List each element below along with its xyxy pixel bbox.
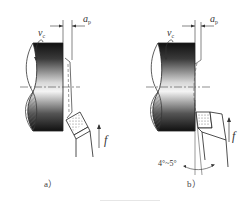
ap-subscript: p (215, 19, 218, 25)
caption-a: a） (44, 180, 57, 189)
vc-subscript: c (171, 33, 174, 39)
angle-label-b: 4°~5° (158, 160, 177, 168)
feed-label-b: f (232, 130, 235, 142)
depth-of-cut-label-b: ap (210, 14, 218, 25)
panel-a (20, 20, 101, 157)
cutting-tool-a (66, 112, 93, 157)
panel-b (146, 20, 231, 175)
cutting-speed-label-a: vc (38, 28, 45, 39)
depth-of-cut-label-a: ap (83, 14, 91, 25)
caption-b: b） (187, 180, 201, 189)
angle-arc-b (184, 165, 214, 170)
feed-label-a: f (104, 134, 107, 146)
cross-section-hatch-a (25, 92, 36, 131)
vc-subscript: c (42, 33, 45, 39)
cutting-speed-label-b: vc (167, 28, 174, 39)
cross-section-hatch-b (150, 92, 161, 131)
bottom-rule (100, 200, 160, 201)
cut-surface-a (65, 58, 72, 118)
ap-subscript: p (88, 19, 91, 25)
cutting-tool-b (196, 112, 228, 167)
